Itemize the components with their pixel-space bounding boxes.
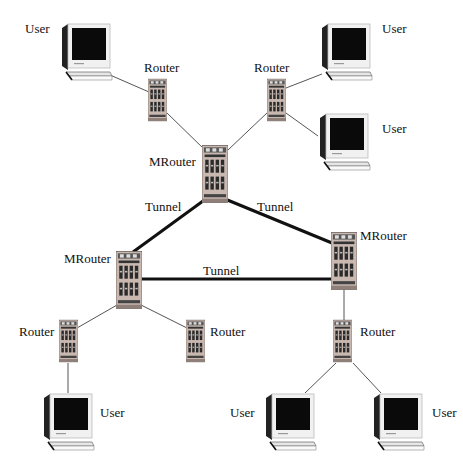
network-link: [166, 112, 205, 150]
mrouter-icon: [331, 232, 357, 294]
tunnel-label: Tunnel: [257, 200, 293, 213]
network-diagram: UserRouterUserRouterUserMRouterTunnelTun…: [0, 0, 463, 469]
router-label: Router: [210, 325, 245, 338]
user-label: User: [230, 406, 255, 419]
router-icon: [333, 319, 352, 367]
network-link: [286, 113, 318, 136]
router-label: Router: [144, 61, 179, 74]
network-link: [286, 74, 322, 88]
router-label: Router: [19, 325, 54, 338]
user-label: User: [100, 406, 125, 419]
user-monitor-icon: [40, 392, 96, 458]
user-monitor-icon: [58, 22, 114, 88]
router-label: Router: [254, 61, 289, 74]
router-icon: [148, 78, 167, 126]
mrouter-label: MRouter: [149, 155, 196, 168]
user-monitor-icon: [316, 112, 372, 178]
network-link: [141, 305, 187, 328]
router-icon: [267, 78, 286, 126]
network-link: [110, 75, 149, 92]
network-link: [305, 363, 336, 393]
network-link: [77, 305, 117, 328]
network-link: [353, 363, 381, 393]
router-icon: [59, 319, 78, 367]
mrouter-icon: [202, 145, 228, 207]
user-monitor-icon: [318, 22, 374, 88]
mrouter-label: MRouter: [360, 229, 407, 242]
tunnel-label: Tunnel: [145, 200, 181, 213]
mrouter-label: MRouter: [64, 252, 111, 265]
user-label: User: [432, 406, 457, 419]
mrouter-icon: [116, 251, 142, 313]
router-label: Router: [360, 325, 395, 338]
network-link: [228, 112, 268, 150]
user-monitor-icon: [262, 392, 318, 458]
tunnel-label: Tunnel: [203, 264, 239, 277]
user-label: User: [25, 22, 50, 35]
router-icon: [186, 319, 205, 367]
user-monitor-icon: [370, 392, 426, 458]
user-label: User: [382, 22, 407, 35]
user-label: User: [382, 122, 407, 135]
